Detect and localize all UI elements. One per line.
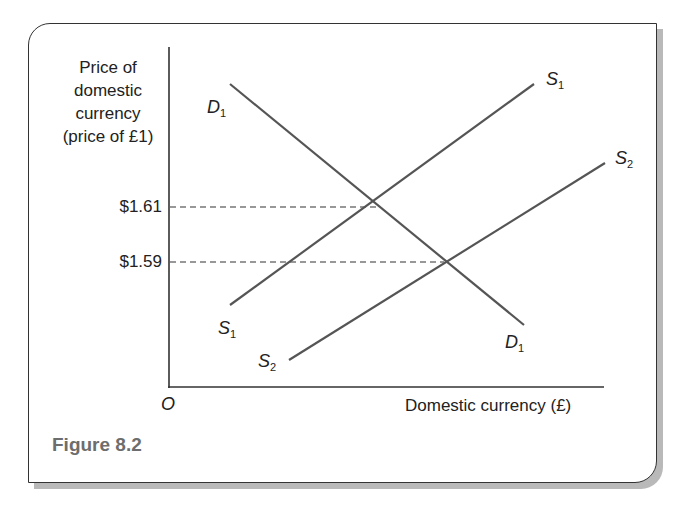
s2-label-top: S2 [615, 148, 633, 170]
x-axis-label: Domestic currency (£) [405, 396, 571, 416]
demand-curve-d1 [230, 84, 524, 325]
y-tick-159: $1.59 [82, 252, 162, 272]
supply-curve-s1 [230, 84, 534, 305]
figure-caption: Figure 8.2 [52, 434, 142, 456]
curve-subscript: 2 [627, 158, 633, 170]
y-axis-label-line: domestic [52, 79, 164, 102]
y-tick-161: $1.61 [82, 197, 162, 217]
s2-label-bottom: S2 [258, 351, 276, 373]
y-axis-label-line: currency [52, 102, 164, 125]
y-axis-label: Price of domestic currency (price of £1) [52, 56, 164, 148]
origin-label: O [161, 394, 175, 415]
s1-label-top: S1 [546, 69, 564, 91]
curve-subscript: 1 [230, 328, 236, 340]
curve-letter: D [505, 332, 518, 352]
d1-label-bottom: D1 [505, 332, 524, 354]
curve-letter: D [207, 97, 220, 117]
curve-letter: S [218, 318, 230, 338]
curve-subscript: 1 [558, 79, 564, 91]
d1-label-top: D1 [207, 97, 226, 119]
curve-letter: S [546, 69, 558, 89]
y-axis-label-line: Price of [52, 56, 164, 79]
curve-letter: S [615, 148, 627, 168]
y-axis-label-line: (price of £1) [52, 125, 164, 148]
supply-curve-s2 [289, 163, 605, 360]
curve-subscript: 2 [270, 361, 276, 373]
curve-letter: S [258, 351, 270, 371]
curve-subscript: 1 [518, 342, 524, 354]
s1-label-bottom: S1 [218, 318, 236, 340]
curve-subscript: 1 [220, 107, 226, 119]
